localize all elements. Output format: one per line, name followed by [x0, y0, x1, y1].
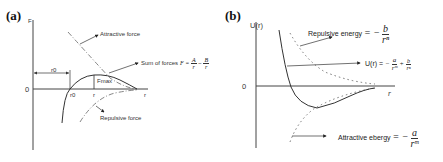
panel-energy-diagram: (b) U(r) 0 r Repulsive energy = − brⁿ U(…: [220, 0, 443, 162]
fmax-label: Fmax: [97, 78, 112, 84]
repulsive-leader-arrow: [96, 106, 104, 112]
sum-formula: F = Ar − Br: [180, 57, 209, 70]
x-axis-label: r: [144, 92, 146, 98]
repulsive-force-label: Repulsive force: [100, 115, 141, 121]
attractive-energy-label: Attractive ebergy = − arᵐ: [338, 128, 419, 149]
r1-tick-label: r: [93, 92, 95, 98]
panel-tag-b: (b): [225, 9, 241, 22]
origin-label: 0: [242, 83, 246, 91]
y-axis-label: F: [28, 18, 32, 24]
attractive-force-label: Attractive force: [100, 31, 140, 37]
panel-force-diagram: (a) F 0 r r0 r0 r Fmax Attractive force …: [0, 0, 220, 162]
total-energy-label: U(r) = − arᵐ + brⁿ: [365, 57, 411, 72]
origin-label: 0: [25, 86, 29, 94]
x-axis-label: r: [388, 90, 391, 98]
sum-leader-arrow: [109, 63, 138, 73]
panel-tag-a: (a): [6, 9, 21, 22]
r0-bracket-label: r0: [51, 67, 56, 73]
repulsive-energy-label: Repulsive energy = − brⁿ: [308, 24, 389, 45]
r0-tick-label: r0: [70, 92, 75, 98]
y-axis-label: U(r): [250, 22, 263, 30]
sum-of-forces-label: Sum of forces: [141, 60, 178, 66]
total-leader-arrow: [287, 63, 360, 66]
attractive-leader-arrow: [80, 35, 98, 44]
